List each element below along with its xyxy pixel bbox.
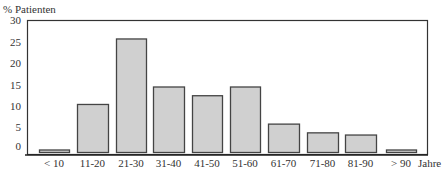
y-tick-label: 0 bbox=[16, 140, 22, 152]
x-tick-label: 61-70 bbox=[271, 157, 297, 169]
bar-81-90 bbox=[346, 135, 377, 152]
bar-11-20 bbox=[78, 104, 109, 152]
bar-21-30 bbox=[117, 39, 147, 153]
bar-31-40 bbox=[154, 87, 185, 153]
y-axis-ticks: 051015202530 bbox=[10, 14, 22, 152]
x-tick-label: 11-20 bbox=[80, 157, 106, 169]
y-tick-label: 10 bbox=[10, 100, 22, 112]
y-tick-label: 25 bbox=[10, 36, 22, 48]
bar-chart: % Patienten 051015202530 < 1011-2021-303… bbox=[0, 0, 444, 173]
x-tick-label: 51-60 bbox=[232, 157, 258, 169]
x-tick-label: 21-30 bbox=[118, 157, 144, 169]
bar-71-80 bbox=[308, 133, 339, 153]
x-tick-label: 31-40 bbox=[156, 157, 182, 169]
x-tick-label: 81-90 bbox=[348, 157, 374, 169]
bar-51-60 bbox=[231, 87, 261, 153]
bar-10 bbox=[40, 150, 70, 153]
y-tick-label: 30 bbox=[10, 14, 22, 26]
y-tick-label: 20 bbox=[10, 57, 22, 69]
bar-41-50 bbox=[193, 96, 223, 153]
y-tick-label: 15 bbox=[10, 79, 22, 91]
bar-61-70 bbox=[269, 124, 300, 152]
x-tick-label: > 90 bbox=[391, 157, 411, 169]
bar-90 bbox=[387, 150, 417, 153]
bars bbox=[40, 39, 417, 153]
x-axis-label: Jahre bbox=[418, 157, 441, 169]
x-axis-ticks: < 1011-2021-3031-4041-5051-6061-7071-808… bbox=[44, 157, 411, 169]
x-tick-label: 71-80 bbox=[310, 157, 336, 169]
x-tick-label: 41-50 bbox=[194, 157, 220, 169]
y-tick-label: 5 bbox=[16, 121, 22, 133]
x-tick-label: < 10 bbox=[44, 157, 64, 169]
